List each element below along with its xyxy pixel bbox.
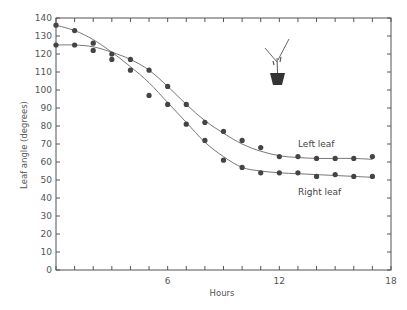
data-point-left-leaf bbox=[165, 84, 170, 89]
y-tick-label: 140 bbox=[35, 13, 52, 23]
data-point-left-leaf bbox=[333, 156, 338, 161]
y-tick-label: 70 bbox=[41, 139, 53, 149]
data-point-right-leaf bbox=[128, 68, 133, 73]
series-label-right-leaf: Right leaf bbox=[298, 187, 342, 197]
data-point-left-leaf bbox=[258, 145, 263, 150]
y-tick-label: 10 bbox=[41, 247, 53, 257]
data-point-left-leaf bbox=[109, 51, 114, 56]
data-point-right-leaf bbox=[184, 122, 189, 127]
y-tick-label: 90 bbox=[41, 103, 53, 113]
data-point-right-leaf bbox=[202, 138, 207, 143]
y-tick-label: 20 bbox=[41, 229, 53, 239]
data-point-right-leaf bbox=[91, 41, 96, 46]
y-tick-label: 30 bbox=[41, 211, 53, 221]
y-tick-label: 100 bbox=[35, 85, 52, 95]
data-point-right-leaf bbox=[109, 57, 114, 62]
y-tick-label: 0 bbox=[46, 265, 52, 275]
data-point-left-leaf bbox=[351, 156, 356, 161]
data-point-left-leaf bbox=[221, 129, 226, 134]
data-point-right-leaf bbox=[240, 165, 245, 170]
y-tick-label: 60 bbox=[41, 157, 53, 167]
data-point-left-leaf bbox=[146, 68, 151, 73]
plot-frame bbox=[56, 18, 391, 270]
data-point-left-leaf bbox=[128, 57, 133, 62]
data-point-right-leaf bbox=[72, 28, 77, 33]
y-axis-title: Leaf angle (degrees) bbox=[19, 101, 29, 189]
data-point-right-leaf bbox=[295, 170, 300, 175]
data-point-right-leaf bbox=[333, 172, 338, 177]
data-point-left-leaf bbox=[240, 138, 245, 143]
y-tick-label: 50 bbox=[41, 175, 53, 185]
data-point-right-leaf bbox=[165, 102, 170, 107]
data-point-left-leaf bbox=[91, 48, 96, 53]
data-point-right-leaf bbox=[221, 158, 226, 163]
x-axis: 61218 bbox=[56, 18, 397, 286]
series-label-left-leaf: Left leaf bbox=[298, 139, 335, 149]
data-point-right-leaf bbox=[53, 23, 58, 28]
data-point-left-leaf bbox=[314, 156, 319, 161]
data-point-right-leaf bbox=[370, 174, 375, 179]
data-point-right-leaf bbox=[351, 174, 356, 179]
leaf-angle-chart: 0102030405060708090100110120130140 61218… bbox=[0, 0, 407, 310]
x-tick-label: 12 bbox=[274, 276, 285, 286]
y-tick-label: 120 bbox=[35, 49, 52, 59]
data-point-left-leaf bbox=[184, 102, 189, 107]
data-points bbox=[53, 23, 375, 179]
x-axis-title: Hours bbox=[210, 288, 235, 298]
y-tick-label: 130 bbox=[35, 31, 52, 41]
x-tick-label: 18 bbox=[385, 276, 397, 286]
data-point-left-leaf bbox=[53, 42, 58, 47]
data-point-right-leaf bbox=[258, 170, 263, 175]
data-point-left-leaf bbox=[202, 120, 207, 125]
data-point-left-leaf bbox=[72, 42, 77, 47]
data-point-left-leaf bbox=[277, 154, 282, 159]
data-point-right-leaf bbox=[146, 93, 151, 98]
y-tick-label: 80 bbox=[41, 121, 53, 131]
plot-border bbox=[56, 18, 391, 270]
data-point-right-leaf bbox=[314, 174, 319, 179]
curve-right-leaf bbox=[56, 25, 372, 177]
data-point-left-leaf bbox=[370, 154, 375, 159]
fitted-curves bbox=[56, 25, 372, 177]
y-tick-label: 110 bbox=[35, 67, 52, 77]
data-point-left-leaf bbox=[295, 154, 300, 159]
x-tick-label: 6 bbox=[165, 276, 171, 286]
y-axis: 0102030405060708090100110120130140 bbox=[35, 13, 391, 275]
data-point-right-leaf bbox=[277, 170, 282, 175]
y-tick-label: 40 bbox=[41, 193, 53, 203]
plant-pot-icon bbox=[265, 39, 289, 85]
